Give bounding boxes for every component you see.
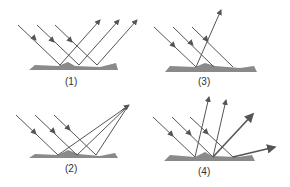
panel-2 (16, 105, 129, 158)
panel-label-2: (2) (65, 163, 77, 174)
panel-1 (18, 20, 137, 70)
panel-label-4: (4) (198, 166, 210, 177)
panel-label-3: (3) (198, 76, 210, 87)
panel-label-1: (1) (65, 76, 77, 87)
panel-4 (153, 97, 275, 161)
reflection-diagram: (1) (3) (2) (4 (0, 0, 290, 187)
panel-3 (154, 10, 257, 72)
rough-surface-1 (29, 62, 118, 70)
